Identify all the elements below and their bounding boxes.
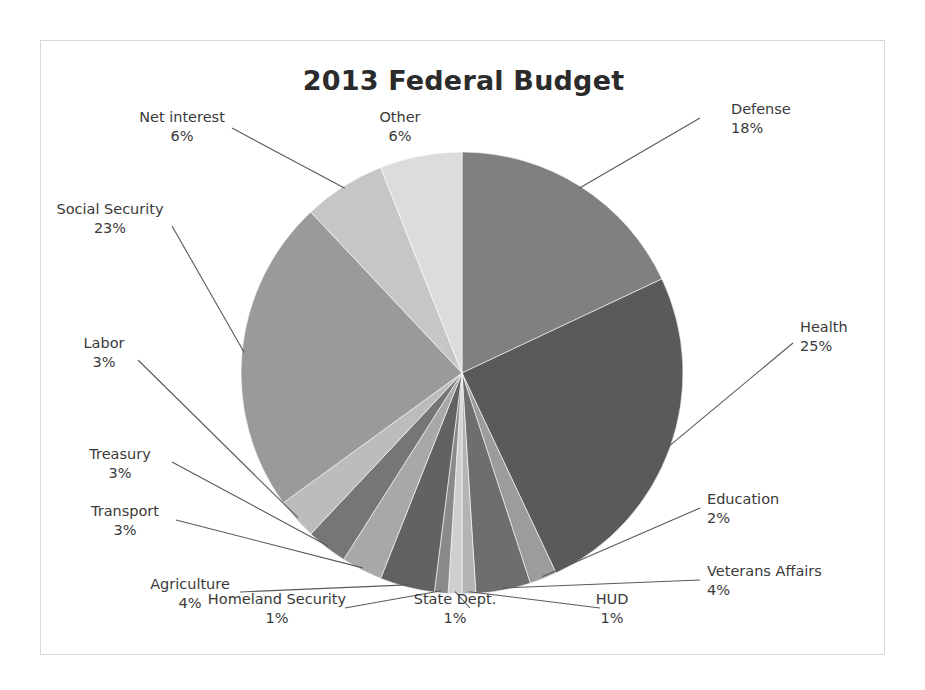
pie-label-name-treasury: Treasury [0, 445, 240, 464]
pie-label-defense: Defense18% [731, 100, 791, 137]
pie-label-transport: Transport3% [5, 502, 245, 539]
pie-label-percent-labor: 3% [0, 353, 224, 372]
pie-label-percent-transport: 3% [5, 521, 245, 540]
pie-label-name-social-security: Social Security [0, 200, 230, 219]
pie-label-name-education: Education [707, 490, 779, 509]
pie-label-percent-health: 25% [800, 337, 848, 356]
pie-label-percent-net-interest: 6% [62, 127, 302, 146]
pie-label-name-agriculture: Agriculture [70, 575, 310, 594]
pie-label-treasury: Treasury3% [0, 445, 240, 482]
pie-label-other: Other6% [280, 108, 520, 145]
leader-line-health [668, 343, 793, 447]
pie-label-percent-treasury: 3% [0, 464, 240, 483]
pie-label-net-interest: Net interest6% [62, 108, 302, 145]
pie-label-name-health: Health [800, 318, 848, 337]
pie-label-name-defense: Defense [731, 100, 791, 119]
pie-label-health: Health25% [800, 318, 848, 355]
pie-label-name-transport: Transport [5, 502, 245, 521]
pie-label-percent-education: 2% [707, 509, 779, 528]
pie-label-education: Education2% [707, 490, 779, 527]
pie-label-name-other: Other [280, 108, 520, 127]
pie-slices-group [241, 152, 683, 594]
pie-label-agriculture: Agriculture4% [70, 575, 310, 612]
pie-label-name-labor: Labor [0, 334, 224, 353]
pie-label-percent-defense: 18% [731, 119, 791, 138]
pie-label-social-security: Social Security23% [0, 200, 230, 237]
pie-label-percent-social-security: 23% [0, 219, 230, 238]
pie-label-name-net-interest: Net interest [62, 108, 302, 127]
pie-label-name-veterans-affairs: Veterans Affairs [707, 562, 822, 581]
pie-label-percent-other: 6% [280, 127, 520, 146]
pie-label-percent-agriculture: 4% [70, 594, 310, 613]
leader-line-defense [579, 118, 700, 188]
pie-label-labor: Labor3% [0, 334, 224, 371]
